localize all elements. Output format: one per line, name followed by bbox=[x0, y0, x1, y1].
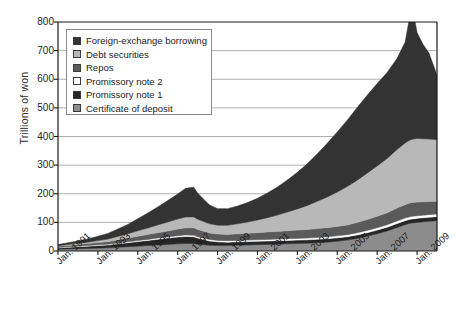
legend-item[interactable]: Promissory note 1 bbox=[73, 88, 206, 101]
legend-item-label: Certificate of deposit bbox=[86, 103, 173, 114]
x-tick-label: Jan. 2007 bbox=[373, 230, 411, 266]
legend-item-label: Promissory note 2 bbox=[86, 76, 163, 87]
x-tick-label: Jan. 1991 bbox=[54, 230, 92, 266]
legend-swatch-icon bbox=[73, 77, 81, 85]
legend-item-label: Repos bbox=[86, 62, 113, 73]
legend-swatch-icon bbox=[73, 50, 81, 58]
chart-legend: Foreign-exchange borrowingDebt securitie… bbox=[66, 29, 212, 115]
x-tick-label: Jan. 2003 bbox=[293, 230, 331, 266]
legend-swatch-icon bbox=[73, 37, 81, 45]
legend-item[interactable]: Promissory note 2 bbox=[73, 75, 206, 88]
x-tick-label: Jan. 1997 bbox=[174, 230, 212, 266]
legend-item-label: Promissory note 1 bbox=[86, 89, 163, 100]
legend-item[interactable]: Foreign-exchange borrowing bbox=[73, 34, 206, 47]
legend-swatch-icon bbox=[73, 64, 81, 72]
x-tick-label: Jan. 1993 bbox=[94, 230, 132, 266]
x-tick-label: Jan. 1999 bbox=[214, 230, 252, 266]
chart-figure: Trillions of won 01002003004005006007008… bbox=[0, 0, 456, 313]
legend-item[interactable]: Certificate of deposit bbox=[73, 102, 206, 115]
x-tick-label: Jan. 2005 bbox=[333, 230, 371, 266]
x-tick-label: Jan. 2001 bbox=[253, 230, 291, 266]
legend-swatch-icon bbox=[73, 104, 81, 112]
x-tick-label: Jan. 1995 bbox=[134, 230, 172, 266]
legend-item[interactable]: Repos bbox=[73, 61, 206, 74]
legend-item[interactable]: Debt securities bbox=[73, 48, 206, 61]
legend-item-label: Foreign-exchange borrowing bbox=[86, 35, 207, 46]
x-tick-label: Jan. 2009 bbox=[413, 230, 451, 266]
legend-item-label: Debt securities bbox=[86, 49, 149, 60]
legend-swatch-icon bbox=[73, 91, 81, 99]
